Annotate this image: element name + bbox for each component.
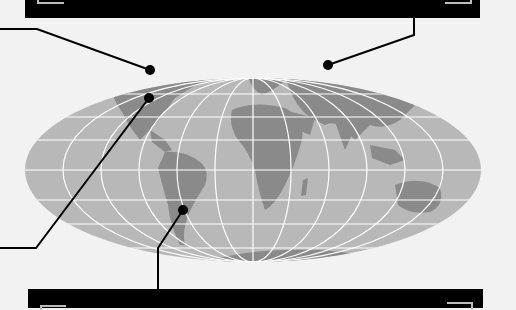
marker-south-america-south [178, 205, 188, 215]
marker-russia [323, 60, 333, 70]
japan [414, 88, 425, 108]
marker-north-america-north [145, 65, 155, 75]
leader-line-russia [328, 16, 414, 65]
leader-line-north-america-north [0, 29, 150, 70]
marker-north-america-east [144, 93, 154, 103]
greenland [205, 48, 240, 66]
new-zealand [453, 213, 460, 228]
